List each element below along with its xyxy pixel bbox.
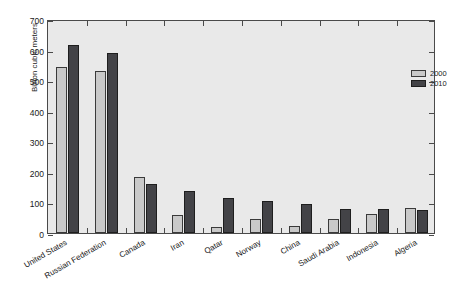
bar: [146, 184, 157, 233]
x-axis-label: Qatar: [202, 238, 224, 256]
x-axis-label: Saudi Arabia: [297, 238, 341, 268]
x-axis-label: Iran: [169, 238, 185, 253]
bar: [223, 198, 234, 233]
y-tick-label: 500: [30, 77, 44, 87]
y-tick-right: [429, 204, 434, 205]
x-tick-bottom: [397, 228, 398, 233]
y-tick-label: 200: [30, 169, 44, 179]
x-tick-bottom: [281, 228, 282, 233]
x-axis-label: Algeria: [392, 238, 418, 258]
x-tick-top: [87, 21, 88, 26]
x-tick-bottom: [164, 228, 165, 233]
bar: [107, 53, 118, 233]
chart-figure: Billion cubic meters 0100200300400500600…: [0, 0, 453, 304]
y-tick: [48, 235, 53, 236]
y-tick-label: 300: [30, 138, 44, 148]
bar: [417, 210, 428, 233]
bar: [328, 219, 339, 233]
bar: [184, 191, 195, 233]
y-tick-label: 600: [30, 47, 44, 57]
y-tick: [48, 21, 53, 22]
bar: [56, 67, 67, 233]
bar: [172, 215, 183, 233]
x-tick-bottom: [126, 228, 127, 233]
x-axis-label: Norway: [235, 238, 263, 259]
x-axis-label: Canada: [118, 238, 147, 260]
bar: [378, 209, 389, 233]
bar: [68, 45, 79, 233]
x-tick-top: [203, 21, 204, 26]
x-tick-top: [242, 21, 243, 26]
x-tick-top: [320, 21, 321, 26]
y-tick: [48, 143, 53, 144]
legend-item-2000: 2000: [411, 69, 453, 78]
y-tick-label: 100: [30, 199, 44, 209]
y-tick: [48, 113, 53, 114]
legend-label-2010: 2010: [430, 79, 447, 88]
y-tick: [48, 174, 53, 175]
legend-label-2000: 2000: [430, 69, 447, 78]
bar: [340, 209, 351, 233]
bar: [301, 204, 312, 233]
y-tick-right: [429, 52, 434, 53]
x-tick-top: [358, 21, 359, 26]
x-axis-label: China: [279, 238, 302, 256]
bar: [95, 71, 106, 233]
bar: [250, 219, 261, 233]
x-tick-bottom: [242, 228, 243, 233]
chart-legend: 2000 2010: [411, 69, 453, 89]
y-tick-right: [429, 21, 434, 22]
bar: [134, 177, 145, 233]
x-tick-bottom: [358, 228, 359, 233]
legend-item-2010: 2010: [411, 79, 453, 88]
y-tick: [48, 82, 53, 83]
x-axis-label: Indonesia: [345, 238, 380, 263]
plot-area: 0100200300400500600700 2000 2010: [47, 20, 435, 234]
y-tick-right: [429, 113, 434, 114]
legend-swatch-2010: [411, 80, 426, 87]
x-tick-top: [281, 21, 282, 26]
y-tick-right: [429, 235, 434, 236]
bar: [262, 201, 273, 233]
bar: [289, 226, 300, 233]
y-tick-label: 400: [30, 108, 44, 118]
y-tick-right: [429, 174, 434, 175]
x-tick-bottom: [87, 228, 88, 233]
bar: [366, 214, 377, 233]
x-tick-top: [126, 21, 127, 26]
x-tick-top: [164, 21, 165, 26]
y-tick-right: [429, 143, 434, 144]
y-tick: [48, 52, 53, 53]
y-tick: [48, 204, 53, 205]
y-tick-label: 0: [39, 230, 44, 240]
x-tick-top: [397, 21, 398, 26]
x-tick-bottom: [203, 228, 204, 233]
legend-swatch-2000: [411, 70, 426, 77]
x-tick-bottom: [320, 228, 321, 233]
y-tick-label: 700: [30, 16, 44, 26]
bar: [211, 227, 222, 233]
bar: [405, 208, 416, 233]
